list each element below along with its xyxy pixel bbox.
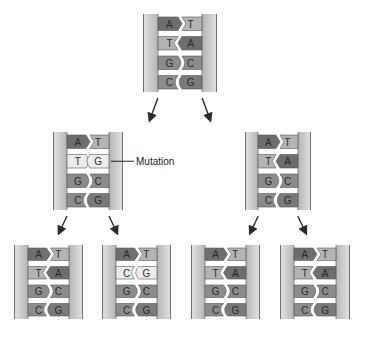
backbone-right (246, 245, 260, 319)
base-letter: A (55, 268, 62, 279)
base-letter: T (166, 38, 172, 49)
base-letter: C (74, 195, 81, 206)
base-letter: A (166, 19, 173, 30)
replication-arrow (250, 216, 258, 233)
dna-replication-diagram: ATTAGCCGATTGGCCGATTAGCCGATTAGCCGATCGGCCG… (0, 0, 366, 338)
base-letter: G (54, 305, 62, 316)
base-letter: G (265, 176, 273, 187)
base-letter: T (95, 137, 101, 148)
base-pair: CG (294, 304, 336, 317)
backbone-left (14, 245, 28, 319)
dna-molecule-gen2-3: ATTAGCCG (191, 245, 260, 319)
base-letter: A (187, 38, 194, 49)
base-letter: A (322, 268, 329, 279)
base-pair: TA (258, 155, 298, 169)
base-pair: CG (158, 76, 202, 90)
base-letter: G (166, 58, 174, 69)
base-pair: AT (158, 17, 202, 31)
base-letter: T (55, 249, 61, 260)
molecules-layer: ATTAGCCGATTGGCCGATTAGCCGATTAGCCGATCGGCCG… (14, 14, 350, 319)
backbone-left (245, 132, 258, 210)
base-pair: CG (116, 267, 157, 280)
base-letter: C (166, 77, 173, 88)
base-pair: AT (205, 248, 246, 261)
base-letter: G (284, 195, 292, 206)
base-pair: CG (67, 194, 109, 208)
base-letter: A (265, 137, 272, 148)
dna-molecule-gen2-1: ATTAGCCG (14, 245, 83, 319)
replication-arrow (109, 216, 117, 233)
base-letter: T (75, 156, 81, 167)
base-letter: G (94, 195, 102, 206)
base-pair: CG (258, 194, 298, 208)
base-letter: C (321, 286, 328, 297)
base-letter: A (75, 137, 82, 148)
base-letter: C (284, 176, 291, 187)
base-pair: TA (28, 267, 69, 280)
base-pair: GC (294, 285, 336, 298)
base-pair: AT (258, 135, 298, 149)
dna-molecule-parent: ATTAGCCG (143, 14, 217, 92)
base-letter: T (302, 268, 308, 279)
base-letter: G (142, 268, 150, 279)
base-letter: C (94, 176, 101, 187)
base-pair: AT (67, 135, 109, 149)
base-letter: C (55, 286, 62, 297)
base-letter: C (301, 305, 308, 316)
base-letter: G (74, 176, 82, 187)
dna-molecule-gen1-right: ATTAGCCG (245, 132, 311, 210)
backbone-right (157, 245, 171, 319)
base-letter: G (123, 286, 131, 297)
replication-arrow (202, 98, 210, 120)
base-pair: TG (67, 155, 109, 169)
base-letter: T (232, 249, 238, 260)
base-letter: C (187, 58, 194, 69)
base-letter: G (212, 286, 220, 297)
backbone-right (336, 245, 350, 319)
base-letter: C (143, 286, 150, 297)
base-pair: GC (28, 285, 69, 298)
base-pair: GC (205, 285, 246, 298)
base-letter: A (284, 156, 291, 167)
base-pair: TA (205, 267, 246, 280)
base-letter: C (35, 305, 42, 316)
base-pair: GC (258, 174, 298, 188)
base-pair: GC (116, 285, 157, 298)
backbone-left (191, 245, 205, 319)
base-letter: T (143, 249, 149, 260)
dna-molecule-gen1-left: ATTGGCCG (53, 132, 123, 210)
base-letter: G (35, 286, 43, 297)
base-pair: CG (205, 304, 246, 317)
base-letter: G (231, 305, 239, 316)
base-letter: G (321, 305, 329, 316)
base-letter: T (285, 137, 291, 148)
base-letter: T (213, 268, 219, 279)
backbone-left (143, 14, 158, 92)
base-letter: G (187, 77, 195, 88)
base-letter: G (142, 305, 150, 316)
backbone-left (102, 245, 116, 319)
base-pair: TA (294, 267, 336, 280)
base-letter: C (265, 195, 272, 206)
backbone-left (280, 245, 294, 319)
replication-arrow (298, 216, 306, 233)
base-pair: CG (116, 304, 157, 317)
replication-arrow (150, 98, 158, 120)
backbone-right (298, 132, 311, 210)
base-pair: CG (28, 304, 69, 317)
base-letter: T (322, 249, 328, 260)
base-letter: T (188, 19, 194, 30)
backbone-right (109, 132, 123, 210)
dna-molecule-gen2-4: ATTAGCCG (280, 245, 350, 319)
base-letter: G (94, 156, 102, 167)
base-letter: A (302, 249, 309, 260)
backbone-left (53, 132, 67, 210)
dna-molecule-gen2-2: ATCGGCCG (102, 245, 171, 319)
base-letter: C (232, 286, 239, 297)
base-letter: A (212, 249, 219, 260)
base-letter: G (301, 286, 309, 297)
base-pair: GC (67, 174, 109, 188)
base-pair: TA (158, 37, 202, 51)
backbone-right (69, 245, 83, 319)
backbone-right (202, 14, 217, 92)
